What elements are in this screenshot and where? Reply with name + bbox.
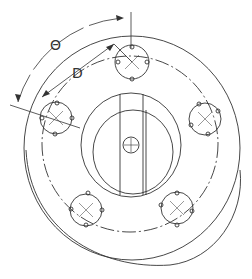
- flange-drawing: [0, 0, 252, 279]
- inner-bore-step: [93, 110, 173, 194]
- distance-label: D: [72, 66, 83, 80]
- bolt-hole-left: [40, 101, 74, 136]
- angle-dimension-arc: [18, 18, 124, 102]
- angle-label: Θ: [50, 38, 61, 52]
- outer-rim: [24, 36, 240, 260]
- bolt-hole-bottom-left: [69, 191, 104, 227]
- outer-rim-back: [26, 150, 241, 265]
- bolt-circle: [42, 56, 218, 232]
- bolt-hole-right: [189, 102, 221, 136]
